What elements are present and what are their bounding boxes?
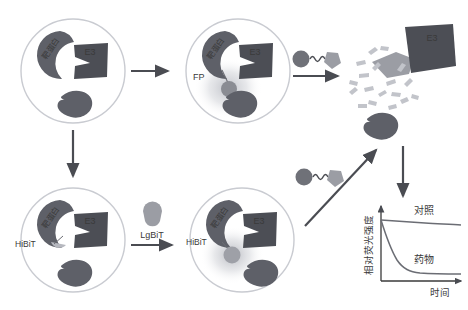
- cell-top-middle: 靶蛋白 E3 FP: [186, 19, 290, 123]
- e3-label: E3: [84, 216, 95, 226]
- hibit-label: HiBiT: [15, 239, 36, 249]
- cell-bottom-left: 靶蛋白 E3 HiBiT: [15, 188, 125, 292]
- e3-label: E3: [249, 47, 260, 57]
- lgbit-label: LgBiT: [140, 230, 164, 240]
- protac-e3-ligand-icon: [324, 52, 341, 69]
- e3-ligase-shape: [405, 24, 456, 73]
- lgbit-shape: [143, 202, 162, 227]
- e3-label: E3: [426, 33, 437, 43]
- cell-top-left: 靶蛋白 E3: [21, 19, 125, 123]
- arrow-bottom-1-group: LgBiT: [131, 202, 172, 245]
- chart-legend-control: 对照: [414, 204, 434, 216]
- readout-chart: 相对荧光强度 时间 对照 药物: [363, 204, 461, 298]
- chart-legend-drug: 药物: [414, 253, 434, 265]
- protac-molecule-bottom: [296, 169, 345, 188]
- ubiquitin-shape: [364, 113, 399, 140]
- chart-series-control: [381, 220, 461, 225]
- hibit-lgbit-complex-shape: [224, 247, 241, 264]
- protac-e3-ligand-icon: [327, 170, 344, 187]
- protac-linker-icon: [313, 175, 328, 180]
- protac-warhead-icon: [293, 51, 310, 68]
- protac-molecule-top: [293, 51, 342, 70]
- arrow-diagonal: [305, 150, 376, 226]
- hibit-label: HiBiT: [186, 237, 207, 247]
- cell-bottom-middle: 靶蛋白 E3 HiBiT: [186, 188, 294, 292]
- protac-linker-icon: [310, 57, 325, 62]
- chart-y-axis-label: 相对荧光强度: [363, 215, 374, 275]
- degraded-fragments: [349, 46, 419, 110]
- chart-series-drug: [381, 220, 461, 274]
- figure-canvas: 靶蛋白 E3 靶蛋白 E3 FP E3: [0, 0, 468, 310]
- degraded-protein-state: E3: [349, 24, 456, 140]
- chart-x-axis-label: 时间: [430, 287, 450, 298]
- protac-warhead-icon: [296, 169, 313, 186]
- e3-label: E3: [84, 47, 95, 57]
- e3-label: E3: [253, 216, 264, 226]
- fp-label: FP: [193, 72, 205, 82]
